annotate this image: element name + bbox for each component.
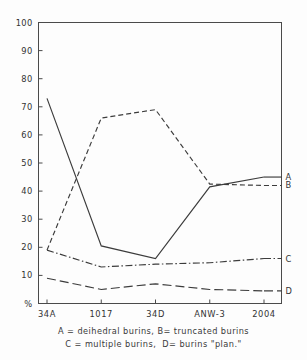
chart-container: %102030405060708090100 34A101734DANW-320…	[0, 0, 307, 360]
y-tick-label-40: 40	[21, 186, 32, 196]
y-tick-label-30: 30	[21, 214, 32, 224]
y-tick-label-80: 80	[21, 74, 32, 84]
caption-line-1: A = deihedral burins, B= truncated burin…	[0, 325, 307, 338]
x-axis-tick-labels: 34A101734DANW-32004	[38, 309, 276, 319]
y-tick-label-%: %	[24, 299, 32, 309]
plot-frame	[39, 23, 282, 304]
series-line-A	[47, 98, 264, 258]
y-tick-label-60: 60	[21, 130, 32, 140]
x-tick-label-2004: 2004	[252, 309, 276, 319]
y-tick-label-90: 90	[21, 46, 32, 56]
x-tick-label-34A: 34A	[38, 309, 56, 319]
data-series-group	[47, 98, 282, 290]
x-tick-label-ANW-3: ANW-3	[194, 309, 225, 319]
x-tick-label-34D: 34D	[146, 309, 165, 319]
y-axis-tick-marks	[39, 23, 43, 276]
series-label-B: B	[286, 180, 292, 190]
y-tick-label-50: 50	[21, 158, 32, 168]
series-label-D: D	[286, 286, 293, 296]
series-label-C: C	[286, 254, 292, 264]
y-axis-tick-labels: %102030405060708090100	[16, 18, 33, 309]
chart-caption: A = deihedral burins, B= truncated burin…	[0, 325, 307, 351]
y-tick-label-10: 10	[21, 270, 32, 280]
caption-line-2: C = multiple burins, D= burins "plan."	[0, 338, 307, 351]
x-axis-tick-marks	[47, 300, 264, 304]
series-line-D	[47, 278, 264, 291]
line-chart-plot: %102030405060708090100 34A101734DANW-320…	[0, 0, 307, 360]
y-tick-label-100: 100	[16, 18, 33, 28]
series-line-B	[47, 110, 264, 251]
x-tick-label-1017: 1017	[89, 309, 113, 319]
y-tick-label-70: 70	[21, 102, 32, 112]
series-label-group: ABCD	[286, 172, 293, 296]
y-tick-label-20: 20	[21, 242, 32, 252]
